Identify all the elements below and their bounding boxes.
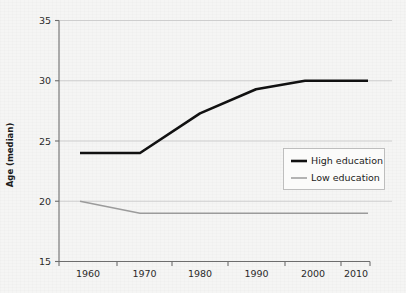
x-tick-label-2010: 2010 — [344, 268, 368, 279]
y-tick-label-25: 25 — [39, 136, 51, 147]
x-axis-tick-labels: 1960 1970 1980 1990 2000 2010 — [76, 268, 368, 279]
x-tick-label-1970: 1970 — [132, 268, 156, 279]
y-tick-label-30: 30 — [39, 75, 51, 86]
x-axis-ticks — [59, 262, 370, 267]
y-axis-title: Age (median) — [5, 123, 15, 188]
x-tick-label-2000: 2000 — [301, 268, 325, 279]
series-line-low-education — [80, 201, 368, 213]
y-axis-ticks — [55, 21, 59, 262]
x-tick-label-1990: 1990 — [244, 268, 268, 279]
legend-label-high-education: High education — [311, 155, 383, 166]
x-tick-label-1980: 1980 — [188, 268, 212, 279]
series-group — [80, 81, 368, 214]
y-tick-label-20: 20 — [39, 196, 51, 207]
y-axis-tick-labels: 35 30 25 20 15 — [39, 15, 51, 267]
legend: High education Low education — [284, 149, 385, 190]
line-chart: 35 30 25 20 15 1960 1970 1980 1990 2000 … — [0, 0, 406, 293]
y-tick-label-15: 15 — [39, 256, 51, 267]
series-line-high-education — [80, 81, 368, 153]
chart-figure: 35 30 25 20 15 1960 1970 1980 1990 2000 … — [0, 0, 406, 293]
x-tick-label-1960: 1960 — [76, 268, 100, 279]
y-tick-label-35: 35 — [39, 15, 51, 26]
legend-label-low-education: Low education — [311, 172, 380, 183]
